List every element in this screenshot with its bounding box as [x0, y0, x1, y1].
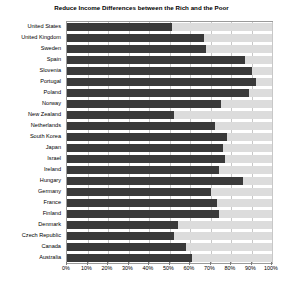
bar-row — [67, 89, 272, 97]
bar-segment-remainder — [192, 254, 272, 262]
bar-segment-remainder — [186, 243, 272, 251]
y-axis-label: Ireland — [44, 165, 61, 173]
bar-segment-agree — [67, 243, 186, 251]
x-axis-label: 80% — [225, 264, 236, 272]
bar-row — [67, 166, 272, 174]
bar-segment-remainder — [243, 177, 272, 185]
bar-segment-remainder — [172, 23, 272, 31]
bar-segment-remainder — [206, 45, 272, 53]
y-axis-label: South Korea — [30, 132, 61, 140]
bar-row — [67, 254, 272, 262]
x-axis-tick — [87, 262, 88, 265]
chart-title: Reduce Income Differences between the Ri… — [0, 4, 283, 12]
bar-row — [67, 144, 272, 152]
x-axis-label: 40% — [143, 264, 154, 272]
x-axis-label: 30% — [122, 264, 133, 272]
bar-row — [67, 232, 272, 240]
bar-segment-remainder — [245, 56, 272, 64]
bar-segment-agree — [67, 34, 204, 42]
x-axis-label: 100% — [264, 264, 278, 272]
bar-row — [67, 56, 272, 64]
bar-segment-agree — [67, 23, 172, 31]
bar-row — [67, 199, 272, 207]
x-axis-tick — [128, 262, 129, 265]
bar-segment-remainder — [204, 34, 272, 42]
bar-row — [67, 34, 272, 42]
gridline — [272, 22, 273, 263]
bar-row — [67, 155, 272, 163]
x-axis-label: 90% — [245, 264, 256, 272]
bar-segment-remainder — [174, 111, 272, 119]
bar-row — [67, 45, 272, 53]
x-axis-tick — [66, 262, 67, 265]
y-axis-label: New Zealand — [28, 110, 61, 118]
bar-row — [67, 111, 272, 119]
y-axis-label: Finland — [43, 209, 61, 217]
bar-segment-remainder — [178, 221, 272, 229]
x-axis-tick — [107, 262, 108, 265]
bar-segment-remainder — [217, 199, 272, 207]
y-axis-label: Australia — [39, 253, 61, 261]
y-axis-label: France — [44, 198, 61, 206]
x-axis-label: 60% — [184, 264, 195, 272]
bar-chart: Reduce Income Differences between the Ri… — [0, 0, 283, 286]
plot-area — [66, 21, 273, 264]
y-axis-label: Israel — [47, 154, 61, 162]
bar-segment-agree — [67, 100, 221, 108]
x-axis-tick — [230, 262, 231, 265]
x-axis-tick — [189, 262, 190, 265]
bar-row — [67, 23, 272, 31]
bar-segment-agree — [67, 254, 192, 262]
bar-segment-remainder — [223, 144, 272, 152]
bar-segment-agree — [67, 144, 223, 152]
y-axis-label: Spain — [47, 55, 61, 63]
y-axis-labels: United StatesUnited KingdomSwedenSpainSl… — [0, 21, 64, 262]
bar-segment-remainder — [252, 67, 273, 75]
bar-segment-agree — [67, 78, 256, 86]
bar-row — [67, 243, 272, 251]
x-axis-label: 20% — [102, 264, 113, 272]
bar-segment-agree — [67, 89, 249, 97]
y-axis-label: Portugal — [40, 77, 61, 85]
bar-rows — [67, 22, 272, 263]
bar-segment-remainder — [219, 210, 272, 218]
x-axis-label: 0% — [62, 264, 70, 272]
y-axis-label: Poland — [44, 88, 61, 96]
bar-segment-remainder — [174, 232, 272, 240]
bar-segment-agree — [67, 56, 245, 64]
x-axis-tick — [169, 262, 170, 265]
y-axis-label: Germany — [38, 187, 61, 195]
bar-segment-agree — [67, 177, 243, 185]
y-axis-label: Norway — [42, 99, 61, 107]
bar-segment-remainder — [256, 78, 272, 86]
bar-segment-agree — [67, 221, 178, 229]
bar-segment-agree — [67, 188, 211, 196]
bar-segment-remainder — [215, 122, 272, 130]
bar-segment-agree — [67, 111, 174, 119]
bar-row — [67, 188, 272, 196]
bar-segment-agree — [67, 166, 219, 174]
y-axis-label: Canada — [41, 242, 61, 250]
y-axis-label: Sweden — [41, 44, 61, 52]
x-axis-labels: 0%10%20%30%40%50%60%70%80%90%100% — [0, 264, 283, 276]
y-axis-label: Denmark — [38, 220, 61, 228]
bar-segment-remainder — [225, 155, 272, 163]
bar-segment-remainder — [249, 89, 272, 97]
x-axis-label: 70% — [204, 264, 215, 272]
y-axis-label: Japan — [46, 143, 61, 151]
y-axis-label: Hungary — [40, 176, 61, 184]
bar-row — [67, 221, 272, 229]
bar-segment-agree — [67, 67, 252, 75]
y-axis-label: Czech Republic — [22, 231, 61, 239]
bar-row — [67, 67, 272, 75]
bar-row — [67, 133, 272, 141]
x-axis-tick — [148, 262, 149, 265]
bar-segment-agree — [67, 210, 219, 218]
y-axis-label: Slovenia — [40, 66, 61, 74]
bar-row — [67, 122, 272, 130]
x-axis-tick — [251, 262, 252, 265]
bar-segment-agree — [67, 45, 206, 53]
bar-segment-remainder — [219, 166, 272, 174]
x-axis-tick — [210, 262, 211, 265]
bar-segment-agree — [67, 199, 217, 207]
